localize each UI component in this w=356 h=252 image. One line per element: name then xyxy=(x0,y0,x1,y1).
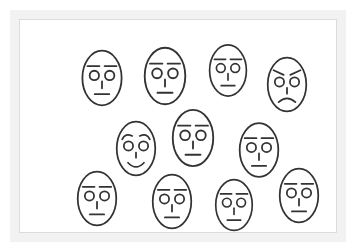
eye-left xyxy=(287,188,296,197)
face-outline xyxy=(280,169,319,223)
happy-face-row2-col1[interactable] xyxy=(115,120,157,177)
eye-left xyxy=(124,141,133,150)
eye-right xyxy=(302,188,311,197)
face-outline xyxy=(145,48,186,104)
stimulus-frame xyxy=(10,10,346,242)
eye-right xyxy=(100,191,109,200)
face-grid xyxy=(20,20,336,232)
face-outline xyxy=(173,110,213,166)
face-outline xyxy=(78,172,117,226)
eye-left xyxy=(247,143,256,152)
eye-left xyxy=(160,194,169,203)
eyebrow-right xyxy=(290,70,300,75)
face-outline xyxy=(153,175,192,229)
eyebrow-right xyxy=(140,135,150,139)
neutral-face-row2-col3[interactable] xyxy=(238,121,280,179)
eye-left xyxy=(152,69,162,79)
mouth-frown xyxy=(279,98,296,102)
neutral-face-row3-col1[interactable] xyxy=(76,170,118,227)
face-outline xyxy=(240,123,279,177)
eye-left xyxy=(90,71,99,80)
eye-right xyxy=(262,143,271,152)
stimulus-canvas xyxy=(19,19,337,233)
eye-right xyxy=(196,131,206,141)
eye-right xyxy=(139,141,148,150)
eye-right xyxy=(105,71,114,80)
eyebrow-left xyxy=(122,135,132,139)
eye-left xyxy=(275,77,284,86)
face-outline xyxy=(268,58,307,112)
neutral-face-row2-col2[interactable] xyxy=(171,108,215,168)
neutral-face-row1-col3[interactable] xyxy=(208,43,248,98)
face-outline xyxy=(216,180,253,231)
face-outline xyxy=(82,51,121,106)
face-outline xyxy=(210,45,247,96)
mouth-smile xyxy=(128,163,144,167)
eye-left xyxy=(222,198,231,207)
neutral-face-row1-col1[interactable] xyxy=(80,49,124,107)
eye-right xyxy=(175,194,184,203)
eye-left xyxy=(180,131,190,141)
eye-left xyxy=(216,64,225,73)
neutral-face-row3-col2[interactable] xyxy=(151,173,193,230)
eye-right xyxy=(168,69,178,79)
neutral-face-row1-col2[interactable] xyxy=(142,46,188,106)
eye-right xyxy=(237,198,246,207)
eye-right xyxy=(231,64,240,73)
neutral-face-row3-col3[interactable] xyxy=(214,178,254,232)
eyebrow-left xyxy=(274,70,284,75)
neutral-face-row3-col4[interactable] xyxy=(278,167,320,224)
angry-face-row1-col4[interactable] xyxy=(266,56,308,113)
eye-left xyxy=(85,191,94,200)
eye-right xyxy=(290,77,299,86)
